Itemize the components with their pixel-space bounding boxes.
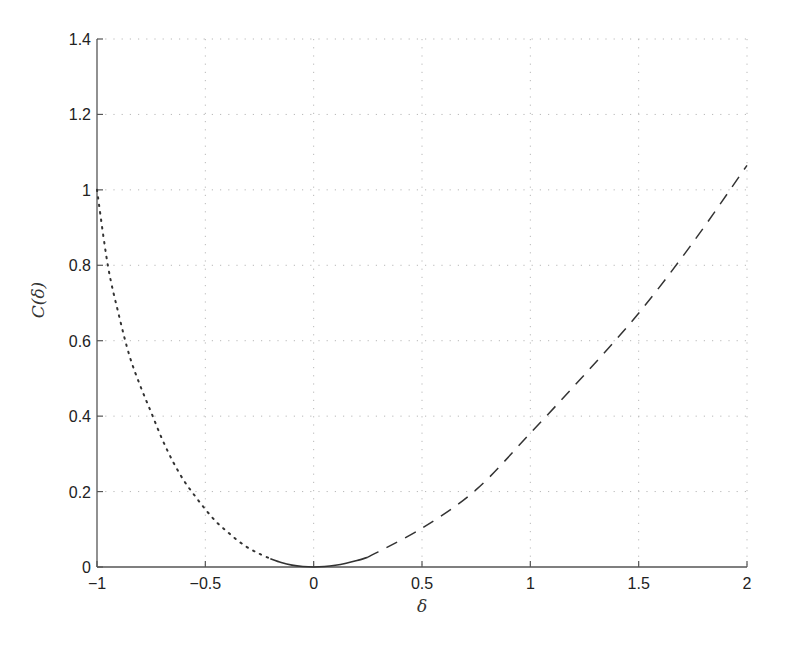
- y-tick-label: 1: [82, 182, 91, 199]
- x-tick-label: 2: [743, 575, 752, 592]
- y-tick-label: 0.6: [69, 333, 91, 350]
- x-axis-ticks: −1−0.500.511.52: [88, 561, 752, 592]
- curve-dotted: [97, 190, 270, 559]
- y-tick-label: 1.4: [69, 31, 91, 48]
- curve-solid: [270, 557, 368, 567]
- y-axis-ticks: 00.20.40.60.811.21.4: [69, 31, 103, 576]
- x-tick-label: 0.5: [411, 575, 433, 592]
- x-tick-label: 1: [526, 575, 535, 592]
- grid-lines: [97, 39, 747, 567]
- x-tick-label: −1: [88, 575, 106, 592]
- curve-dashed: [368, 165, 747, 557]
- x-tick-label: 1.5: [628, 575, 650, 592]
- y-axis-label: C(δ): [28, 282, 48, 319]
- chart: −1−0.500.511.52 00.20.40.60.811.21.4 δ C…: [0, 0, 790, 645]
- y-tick-label: 1.2: [69, 106, 91, 123]
- y-tick-label: 0: [82, 559, 91, 576]
- x-tick-label: −0.5: [190, 575, 222, 592]
- x-tick-label: 0: [309, 575, 318, 592]
- x-axis-label: δ: [417, 596, 427, 616]
- axes: [97, 39, 747, 567]
- y-tick-label: 0.4: [69, 408, 91, 425]
- y-tick-label: 0.8: [69, 257, 91, 274]
- y-tick-label: 0.2: [69, 484, 91, 501]
